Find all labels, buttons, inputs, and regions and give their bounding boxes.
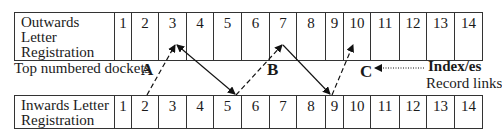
link-label-c: C	[360, 62, 372, 82]
index-note-title: Index/es	[428, 58, 481, 75]
link-label-a: A	[141, 60, 153, 80]
top-numbered-dockets-label: Top numbered dockets	[14, 60, 150, 77]
dashed-arrow-c	[332, 45, 353, 95]
index-note-subtitle: Record links	[426, 75, 502, 92]
solid-arrow-3-to-5	[177, 45, 235, 94]
link-label-b: B	[267, 60, 278, 80]
solid-arrow-7-to-9	[283, 45, 330, 94]
